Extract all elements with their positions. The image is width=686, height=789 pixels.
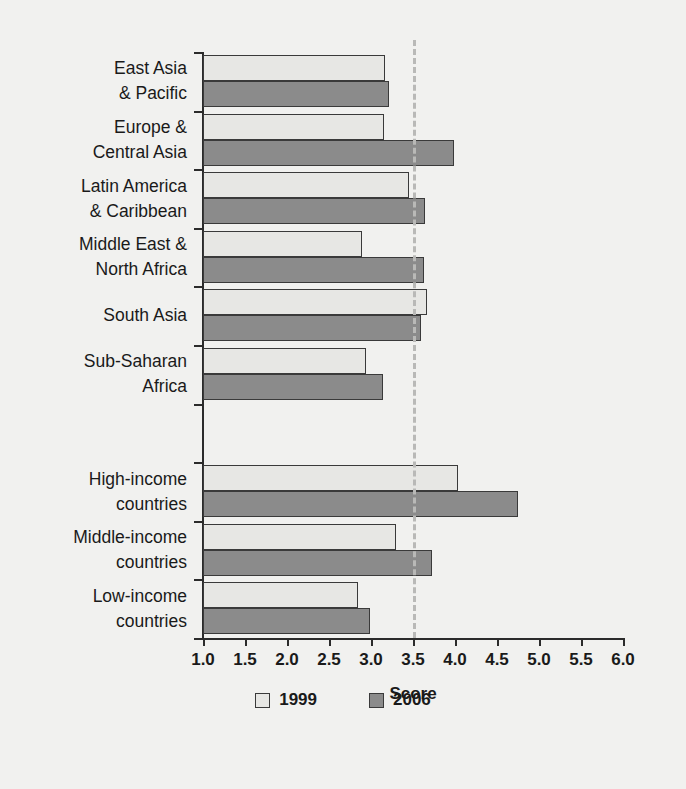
bar-2006 [203, 491, 518, 517]
category-label: Middle East & North Africa [0, 232, 187, 282]
y-tick [194, 169, 203, 171]
bar-1999 [203, 114, 384, 140]
legend-item-2006: 2006 [369, 690, 431, 710]
x-tick [371, 638, 373, 646]
legend-label-1999: 1999 [279, 690, 317, 710]
x-tick [497, 638, 499, 646]
category-label: High-income countries [0, 467, 187, 517]
y-tick [194, 638, 203, 640]
x-tick [329, 638, 331, 646]
bar-1999 [203, 231, 362, 257]
y-tick [194, 521, 203, 523]
x-tick [413, 638, 415, 646]
category-label: East Asia & Pacific [0, 56, 187, 106]
y-tick [194, 286, 203, 288]
bar-1999 [203, 524, 396, 550]
y-tick [194, 345, 203, 347]
y-tick [194, 404, 203, 406]
bar-2006 [203, 81, 389, 107]
bar-1999 [203, 582, 358, 608]
category-label: Sub-Saharan Africa [0, 349, 187, 399]
bar-1999 [203, 172, 409, 198]
bar-2006 [203, 257, 424, 283]
plot-area: 1.01.52.02.53.03.54.04.55.05.56.0 Score [203, 52, 623, 638]
legend-item-1999: 1999 [255, 690, 317, 710]
reference-line [413, 40, 416, 638]
bar-1999 [203, 289, 427, 315]
chart-legend: 1999 2006 [0, 690, 686, 710]
bar-1999 [203, 348, 366, 374]
x-tick [623, 638, 625, 646]
bar-2006 [203, 374, 383, 400]
y-tick [194, 579, 203, 581]
bar-2006 [203, 198, 425, 224]
y-tick [194, 111, 203, 113]
bar-chart: East Asia & PacificEurope & Central Asia… [0, 0, 686, 789]
x-tick-label: 6.0 [595, 650, 651, 670]
category-axis-labels: East Asia & PacificEurope & Central Asia… [0, 52, 195, 638]
legend-label-2006: 2006 [393, 690, 431, 710]
bar-2006 [203, 550, 432, 576]
y-tick [194, 462, 203, 464]
category-label: Latin America & Caribbean [0, 174, 187, 224]
x-tick [581, 638, 583, 646]
bar-1999 [203, 465, 458, 491]
category-label: South Asia [0, 303, 187, 328]
legend-swatch-2006 [369, 693, 384, 708]
bar-2006 [203, 140, 454, 166]
bar-2006 [203, 315, 421, 341]
category-label: Low-income countries [0, 584, 187, 634]
x-tick [203, 638, 205, 646]
y-tick [194, 228, 203, 230]
bar-2006 [203, 608, 370, 634]
legend-swatch-1999 [255, 693, 270, 708]
bar-1999 [203, 55, 385, 81]
x-tick [287, 638, 289, 646]
category-label: Middle-income countries [0, 525, 187, 575]
x-tick [455, 638, 457, 646]
y-tick [194, 52, 203, 54]
category-label: Europe & Central Asia [0, 115, 187, 165]
x-tick [539, 638, 541, 646]
x-tick [245, 638, 247, 646]
